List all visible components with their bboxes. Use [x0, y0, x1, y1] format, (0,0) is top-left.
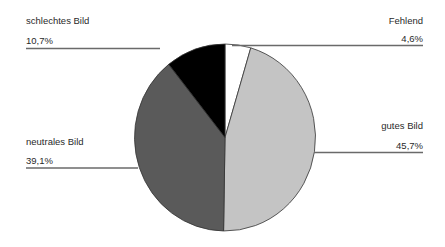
label-gutes-name: gutes Bild — [381, 120, 423, 131]
label-fehlend-name: Fehlend — [389, 15, 423, 26]
pie-slices — [135, 44, 316, 231]
label-fehlend-value: 4,6% — [401, 33, 423, 44]
label-neutrales-name: neutrales Bild — [26, 136, 84, 147]
label-gutes-value: 45,7% — [396, 140, 423, 151]
pie-chart — [0, 0, 445, 247]
label-schlechtes-name: schlechtes Bild — [26, 15, 89, 26]
label-neutrales-value: 39,1% — [26, 155, 53, 166]
label-schlechtes-value: 10,7% — [26, 35, 53, 46]
